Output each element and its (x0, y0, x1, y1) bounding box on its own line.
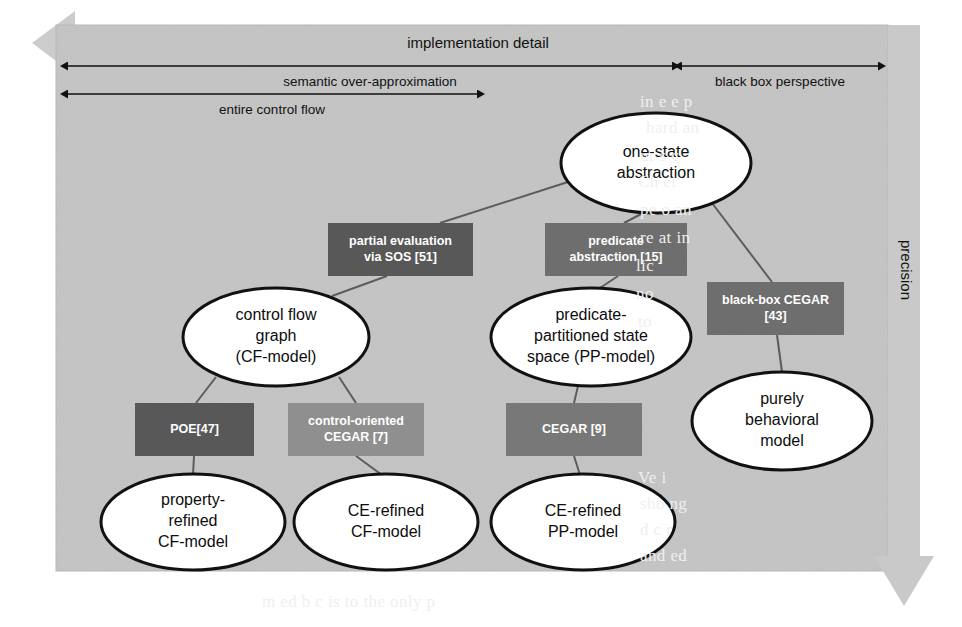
node-label-line: model (760, 432, 804, 449)
box-label-line: control-oriented (308, 414, 404, 428)
node-predicate-partitioned-state-space[interactable]: predicate-partitioned statespace (PP-mod… (491, 288, 691, 386)
bleedthrough-text: no (636, 284, 654, 304)
bleedthrough-text: m ed b c is to the only p (262, 592, 435, 612)
box-label-line: via SOS [51] (364, 250, 437, 264)
bleedthrough-text: lic (636, 256, 654, 276)
architecture-abstraction-hierarchy-diagram: precision implementation detail semantic… (0, 0, 962, 627)
bleedthrough-text: to (638, 312, 652, 332)
node-control-flow-graph[interactable]: control flowgraph(CF-model) (183, 288, 369, 386)
node-label-line: graph (256, 327, 297, 344)
bleedthrough-text: in e e p (640, 92, 693, 112)
box-black-box-cegar[interactable]: black-box CEGAR[43] (707, 282, 844, 335)
black-box-perspective-label: black box perspective (715, 74, 845, 89)
node-ce-refined-cf-model[interactable]: CE-refinedCF-model (294, 474, 478, 570)
precision-axis-label: precision (898, 240, 915, 300)
bleedthrough-text: and ed (640, 546, 687, 566)
node-label-line: CE-refined (545, 502, 621, 519)
box-label-line: black-box CEGAR (722, 293, 829, 307)
node-label-line: behavioral (745, 411, 819, 428)
bleedthrough-text: sho ng (640, 494, 687, 514)
box-label-line: partial evaluation (349, 234, 452, 248)
box-label-line: CEGAR [7] (324, 430, 388, 444)
box-label-line: [43] (764, 309, 786, 323)
node-property-refined-cf-model[interactable]: property-refinedCF-model (101, 474, 285, 570)
node-label-line: (CF-model) (236, 348, 317, 365)
node-label-line: partitioned state (534, 327, 648, 344)
implementation-detail-label: implementation detail (407, 34, 549, 51)
bleedthrough-text: Ve i (638, 468, 667, 488)
entire-control-flow-label: entire control flow (219, 102, 325, 117)
node-label-line: PP-model (548, 523, 618, 540)
bleedthrough-text: d c r (640, 520, 672, 540)
node-label-line: CE-refined (348, 502, 424, 519)
node-purely-behavioral-model[interactable]: purelybehavioralmodel (692, 372, 872, 470)
node-label-line: property- (161, 491, 225, 508)
box-cegar[interactable]: CEGAR [9] (506, 403, 642, 456)
bleedthrough-text: ur s c (640, 146, 679, 166)
edge-poe-to-propertyrefined (193, 456, 194, 475)
figure-canvas: in e e phard anur s cCh eipe o anre at i… (0, 0, 962, 627)
box-partial-evaluation-via-sos[interactable]: partial evaluationvia SOS [51] (328, 223, 473, 276)
node-label-line: purely (760, 390, 804, 407)
node-label-line: control flow (236, 306, 317, 323)
node-label-line: CF-model (351, 523, 421, 540)
node-label-line: space (PP-model) (527, 348, 655, 365)
bleedthrough-text: Ch ei (638, 172, 676, 192)
bleedthrough-text: hard an (646, 118, 699, 138)
bleedthrough-text: pe o an (640, 200, 692, 220)
node-label-line: predicate- (555, 306, 626, 323)
box-label-line: CEGAR [9] (542, 422, 606, 436)
box-control-oriented-cegar[interactable]: control-orientedCEGAR [7] (288, 403, 424, 456)
box-poe[interactable]: POE[47] (135, 403, 254, 456)
box-label-line: predicate (588, 234, 644, 248)
node-label-line: CF-model (158, 533, 228, 550)
bleedthrough-text: re at in (640, 228, 690, 248)
node-label-line: refined (169, 512, 218, 529)
semantic-over-approximation-label: semantic over-approximation (283, 74, 456, 89)
box-label-line: POE[47] (170, 422, 219, 436)
